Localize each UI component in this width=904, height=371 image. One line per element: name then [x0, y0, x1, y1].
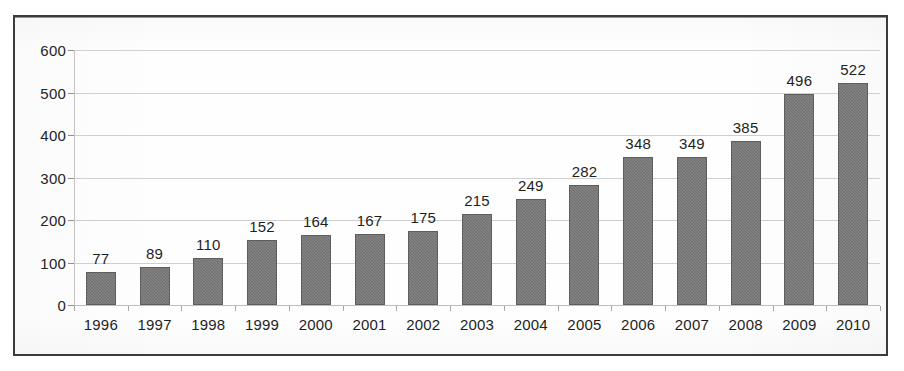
y-axis-tick-mark: [68, 305, 74, 306]
bar-value-label: 110: [180, 237, 236, 252]
bar-value-label: 167: [342, 213, 398, 228]
x-axis-tick-mark: [826, 306, 827, 311]
bar: [86, 272, 116, 305]
bar: [569, 185, 599, 305]
x-axis-tick-mark: [665, 306, 666, 311]
bar-value-label: 152: [234, 219, 290, 234]
x-axis-tick-label: 2002: [395, 317, 451, 332]
chart-page: 0100200300400500600 19961997199819992000…: [0, 0, 904, 371]
bar: [301, 235, 331, 305]
bar: [462, 214, 492, 305]
bar: [623, 157, 653, 305]
y-axis-tick-label: 600: [20, 43, 66, 58]
bar-value-label: 89: [127, 246, 183, 261]
bar: [247, 240, 277, 305]
x-axis-tick-label: 1997: [127, 317, 183, 332]
bar: [677, 157, 707, 305]
gridline: [74, 50, 880, 51]
x-axis-tick-label: 2006: [610, 317, 666, 332]
x-axis-tick-mark: [289, 306, 290, 311]
x-axis-tick-mark: [719, 306, 720, 311]
y-axis-tick-label: 100: [20, 256, 66, 271]
y-axis-line: [74, 50, 75, 306]
y-axis-tick-label: 500: [20, 86, 66, 101]
bar-value-label: 282: [556, 164, 612, 179]
x-axis-tick-label: 2000: [288, 317, 344, 332]
x-axis-tick-mark: [181, 306, 182, 311]
x-axis-tick-label: 2003: [449, 317, 505, 332]
x-axis-tick-label: 2010: [825, 317, 881, 332]
x-axis-tick-mark: [74, 306, 75, 311]
bar: [355, 234, 385, 305]
x-axis-tick-label: 2001: [342, 317, 398, 332]
bar: [516, 199, 546, 305]
x-axis-tick-label: 2005: [556, 317, 612, 332]
x-axis-tick-label: 2007: [664, 317, 720, 332]
x-axis-line: [74, 305, 880, 306]
bar-value-label: 249: [503, 178, 559, 193]
bar-value-label: 385: [718, 120, 774, 135]
y-axis-tick-mark: [68, 178, 74, 179]
y-axis-tick-mark: [68, 50, 74, 51]
bar: [784, 94, 814, 305]
y-axis-tick-mark: [68, 263, 74, 264]
y-axis-tick-label: 200: [20, 213, 66, 228]
bar-value-label: 164: [288, 214, 344, 229]
y-axis-tick-mark: [68, 220, 74, 221]
x-axis-tick-label: 1998: [180, 317, 236, 332]
x-axis-tick-mark: [396, 306, 397, 311]
x-axis-tick-mark: [504, 306, 505, 311]
bar: [140, 267, 170, 305]
x-axis-tick-mark: [235, 306, 236, 311]
x-axis-tick-mark: [450, 306, 451, 311]
bar-value-label: 522: [825, 62, 881, 77]
y-axis-tick-labels: 0100200300400500600: [14, 50, 66, 305]
x-axis-tick-mark: [773, 306, 774, 311]
bar: [731, 141, 761, 305]
bar-value-label: 349: [664, 136, 720, 151]
y-axis-tick-label: 400: [20, 128, 66, 143]
gridline: [74, 93, 880, 94]
x-axis-tick-mark: [611, 306, 612, 311]
bar-value-label: 215: [449, 193, 505, 208]
x-axis-tick-mark: [880, 306, 881, 311]
y-axis-tick-label: 0: [20, 298, 66, 313]
bar: [838, 83, 868, 305]
x-axis-tick-mark: [343, 306, 344, 311]
bar: [193, 258, 223, 305]
bar: [408, 231, 438, 305]
y-axis-tick-mark: [68, 93, 74, 94]
bar-value-label: 348: [610, 136, 666, 151]
bar-value-label: 175: [395, 210, 451, 225]
x-axis-tick-mark: [558, 306, 559, 311]
x-axis-tick-label: 1996: [73, 317, 129, 332]
x-axis-tick-label: 1999: [234, 317, 290, 332]
bar-value-label: 77: [73, 251, 129, 266]
y-axis-tick-label: 300: [20, 171, 66, 186]
x-axis-tick-mark: [128, 306, 129, 311]
bar-value-label: 496: [771, 73, 827, 88]
x-axis-tick-label: 2009: [771, 317, 827, 332]
y-axis-tick-mark: [68, 135, 74, 136]
x-axis-tick-label: 2004: [503, 317, 559, 332]
x-axis-tick-label: 2008: [718, 317, 774, 332]
plot-area: [74, 50, 880, 305]
